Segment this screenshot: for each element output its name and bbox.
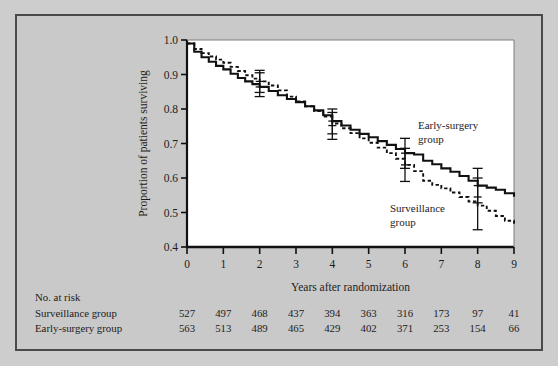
x-tick-label: 0 [184, 258, 190, 270]
risk-cell: 563 [179, 322, 195, 334]
y-tick-label: 1.0 [164, 34, 179, 46]
plot-area [187, 40, 514, 247]
series-label-line2: group [390, 216, 416, 228]
risk-cell: 489 [252, 322, 268, 334]
risk-cell: 253 [433, 322, 449, 334]
risk-table-heading: No. at risk [35, 291, 81, 303]
x-tick-label: 7 [438, 258, 444, 270]
risk-cell: 363 [361, 307, 377, 319]
x-tick-label: 4 [329, 258, 335, 270]
series-label-line1: Surveillance [390, 202, 445, 214]
risk-cell: 465 [288, 322, 304, 334]
series-label-line1: Early-surgery [418, 119, 479, 131]
y-axis-title: Proportion of patients surviving [137, 70, 150, 217]
risk-cell: 371 [397, 322, 413, 334]
risk-cell: 41 [509, 307, 520, 319]
y-tick-label: 0.5 [164, 207, 179, 219]
x-tick-label: 3 [293, 258, 299, 270]
survival-chart: 1.00.90.80.70.60.50.40123456789Years aft… [17, 16, 545, 353]
y-tick-label: 0.9 [164, 69, 179, 81]
risk-cell: 173 [433, 307, 449, 319]
x-tick-label: 6 [402, 258, 408, 270]
risk-row-label: Surveillance group [35, 307, 117, 319]
figure-panel: 1.00.90.80.70.60.50.40123456789Years aft… [15, 14, 543, 351]
chart-container: 1.00.90.80.70.60.50.40123456789Years aft… [17, 16, 545, 353]
y-tick-label: 0.4 [164, 241, 179, 253]
x-tick-label: 1 [220, 258, 226, 270]
risk-cell: 402 [361, 322, 377, 334]
risk-cell: 394 [324, 307, 341, 319]
x-tick-label: 9 [511, 258, 517, 270]
x-tick-label: 5 [366, 258, 372, 270]
risk-cell: 66 [509, 322, 520, 334]
risk-cell: 527 [179, 307, 196, 319]
y-tick-label: 0.7 [164, 138, 179, 150]
risk-cell: 437 [288, 307, 305, 319]
risk-cell: 497 [215, 307, 232, 319]
x-axis-title: Years after randomization [291, 281, 410, 293]
risk-cell: 316 [397, 307, 414, 319]
risk-cell: 97 [472, 307, 483, 319]
risk-cell: 513 [215, 322, 231, 334]
risk-cell: 468 [252, 307, 268, 319]
risk-row-label: Early-surgery group [35, 322, 122, 334]
x-tick-label: 8 [475, 258, 481, 270]
y-tick-label: 0.8 [164, 103, 179, 115]
risk-cell: 154 [470, 322, 487, 334]
series-label-line2: group [418, 133, 444, 145]
y-tick-label: 0.6 [164, 172, 179, 184]
x-tick-label: 2 [257, 258, 263, 270]
risk-cell: 429 [324, 322, 340, 334]
